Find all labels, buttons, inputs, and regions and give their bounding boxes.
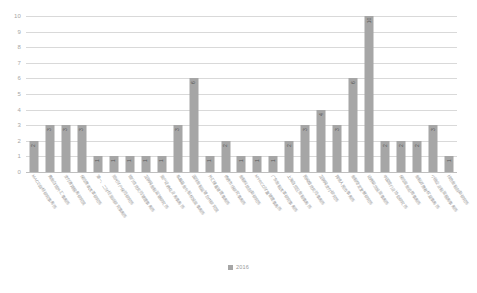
- y-axis-tick-label: 6: [17, 75, 21, 81]
- x-label-slot: 支付清算服务研究院: [58, 174, 74, 256]
- bar-slot: 10: [361, 16, 377, 172]
- bar-chart: 012345678910 233311111361211123436102223…: [0, 0, 477, 293]
- bar-value-label: 1: [111, 160, 116, 163]
- bar[interactable]: 1: [93, 156, 102, 172]
- chart-legend: 2016: [0, 264, 477, 270]
- bar-value-label: 1: [271, 160, 276, 163]
- bar-slot: 6: [186, 16, 202, 172]
- bar-slot: 1: [106, 16, 122, 172]
- bar[interactable]: 2: [285, 141, 294, 172]
- bar-value-label: 2: [383, 144, 388, 147]
- bar-value-label: 3: [47, 128, 52, 131]
- bar-slot: 1: [90, 16, 106, 172]
- bar[interactable]: 1: [445, 156, 454, 172]
- bar[interactable]: 2: [381, 141, 390, 172]
- bar[interactable]: 1: [269, 156, 278, 172]
- y-axis-tick-label: 4: [17, 107, 21, 113]
- y-axis-tick-label: 5: [17, 91, 21, 97]
- x-label-slot: 阳光财产保险研究所: [106, 174, 122, 256]
- bar[interactable]: 1: [109, 156, 118, 172]
- bar-slot: 1: [154, 16, 170, 172]
- bar-slot: 1: [249, 16, 265, 172]
- x-label-slot: MACD指标研究事务所: [26, 174, 42, 256]
- legend-label: 2016: [236, 264, 249, 270]
- bar-value-label: 1: [447, 160, 452, 163]
- y-axis-tick-label: 0: [17, 169, 21, 175]
- bar-slot: 2: [218, 16, 234, 172]
- bar-slot: 4: [313, 16, 329, 172]
- bar-value-label: 2: [415, 144, 420, 147]
- bar[interactable]: 3: [173, 125, 182, 172]
- y-axis-tick-label: 2: [17, 138, 21, 144]
- legend-color-swatch: [228, 265, 233, 270]
- bar-slot: 3: [425, 16, 441, 172]
- x-label-slot: 金融稳定发展研究所: [345, 174, 361, 256]
- bar-value-label: 3: [335, 128, 340, 131]
- x-label-slot: 私募基金与股权投资事务所: [170, 174, 186, 256]
- x-axis-labels: MACD指标研究事务所黄金白银外汇事务所支付清算服务研究院保险费率改革研究所第一…: [26, 174, 457, 256]
- bar[interactable]: 1: [253, 156, 262, 172]
- bar-slot: 1: [202, 16, 218, 172]
- x-label-slot: 第一、二财经资讯研究事务所: [90, 174, 106, 256]
- bar-slot: 3: [329, 16, 345, 172]
- bar[interactable]: 3: [333, 125, 342, 172]
- x-label-slot: 上海自贸区金融事务所: [281, 174, 297, 256]
- bar[interactable]: 3: [429, 125, 438, 172]
- bar-slot: 1: [138, 16, 154, 172]
- bar-value-label: 3: [175, 128, 180, 131]
- bar-slot: 1: [234, 16, 250, 172]
- x-label-slot: 广东金融改革研究事务所: [265, 174, 281, 256]
- x-label-slot: 证券期货投资事务所: [361, 174, 377, 256]
- bar[interactable]: 1: [141, 156, 150, 172]
- bar-value-label: 10: [367, 18, 372, 24]
- y-axis-tick-label: 10: [14, 13, 21, 19]
- bar-slot: 3: [42, 16, 58, 172]
- bar[interactable]: 1: [125, 156, 134, 172]
- bar-value-label: 3: [63, 128, 68, 131]
- bar-slot: 3: [74, 16, 90, 172]
- bar-slot: 2: [281, 16, 297, 172]
- bar-value-label: 2: [287, 144, 292, 147]
- x-label-slot: 银行信贷风险管理事务所: [122, 174, 138, 256]
- bar-value-label: 1: [127, 160, 132, 163]
- bar[interactable]: 1: [205, 156, 214, 172]
- bar-value-label: 2: [399, 144, 404, 147]
- bar[interactable]: 2: [221, 141, 230, 172]
- bar[interactable]: 3: [45, 125, 54, 172]
- bar[interactable]: 10: [365, 16, 374, 172]
- bar-slot: 2: [377, 16, 393, 172]
- bar[interactable]: 2: [413, 141, 422, 172]
- bar-slot: 3: [297, 16, 313, 172]
- bar-value-label: 2: [31, 144, 36, 147]
- bar-slot: 1: [441, 16, 457, 172]
- bar[interactable]: 1: [157, 156, 166, 172]
- bar[interactable]: 6: [349, 78, 358, 172]
- bar[interactable]: 2: [29, 141, 38, 172]
- bar-value-label: 1: [255, 160, 260, 163]
- y-axis-tick-label: 9: [17, 29, 21, 35]
- bar[interactable]: 6: [189, 78, 198, 172]
- x-label-slot: 保险资金运用事务所: [393, 174, 409, 256]
- bar-value-label: 1: [159, 160, 164, 163]
- x-label-slot: 民间借贷风险事务所: [297, 174, 313, 256]
- bar-slot: 3: [58, 16, 74, 172]
- y-axis-tick-label: 8: [17, 44, 21, 50]
- bar[interactable]: 3: [61, 125, 70, 172]
- bar-value-label: 3: [79, 128, 84, 131]
- bar[interactable]: 4: [317, 110, 326, 172]
- bar[interactable]: 2: [397, 141, 406, 172]
- x-axis-tick-label: 绿色金融创新研究所: [445, 174, 469, 206]
- x-label-slot: 金融科技创新研究所: [234, 174, 250, 256]
- bar-slot: 1: [265, 16, 281, 172]
- bar[interactable]: 1: [237, 156, 246, 172]
- bar-value-label: 1: [239, 160, 244, 163]
- x-label-slot: 黄金白银外汇事务所: [42, 174, 58, 256]
- bar-slot: 6: [345, 16, 361, 172]
- bar[interactable]: 3: [301, 125, 310, 172]
- bar[interactable]: 3: [77, 125, 86, 172]
- bar-value-label: 4: [319, 113, 324, 116]
- y-axis-ticks: 012345678910: [0, 16, 26, 172]
- bar-slot: 2: [26, 16, 42, 172]
- bar-value-label: 3: [303, 128, 308, 131]
- x-label-slot: 保险费率改革研究所: [74, 174, 90, 256]
